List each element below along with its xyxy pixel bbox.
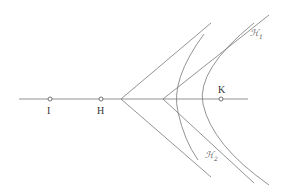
asymptote-1-lower (121, 99, 211, 177)
point-h (99, 97, 103, 101)
point-k (219, 97, 223, 101)
label-k: K (218, 85, 225, 95)
label-h2-subscript: 2 (214, 155, 218, 162)
point-i (48, 97, 52, 101)
label-h1-subscript: 1 (259, 33, 263, 40)
label-h2-symbol: ℋ (205, 150, 214, 160)
label-h1: ℋ1 (250, 29, 263, 40)
hyperbola-h2 (176, 34, 204, 160)
label-h1-symbol: ℋ (250, 28, 259, 38)
asymptote-2-lower (163, 99, 254, 183)
label-h: H (97, 106, 104, 116)
diagram-canvas (0, 0, 281, 190)
asymptote-1-upper (121, 23, 211, 99)
label-h2: ℋ2 (205, 151, 218, 162)
label-i: I (47, 106, 50, 116)
